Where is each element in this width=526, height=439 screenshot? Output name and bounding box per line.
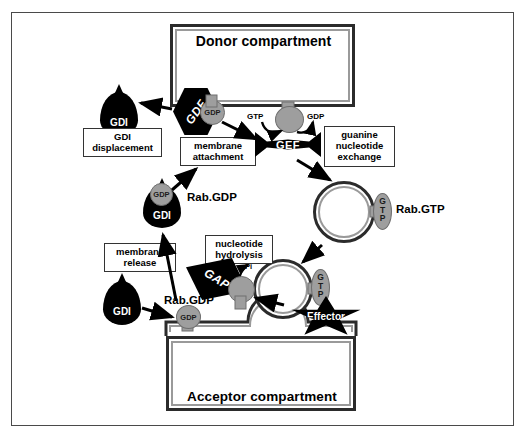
gdp-label-acceptor: GDP [180, 313, 196, 322]
guanine-exchange-line2: nucleotide [328, 140, 391, 151]
membrane-attachment-line1: membrane [184, 140, 252, 151]
rab-blob-acceptor-right [228, 276, 255, 303]
gdp-label-gdi-complex: GDP [153, 190, 169, 199]
acceptor-compartment-label: Acceptor compartment [174, 389, 350, 404]
guanine-nucleotide-exchange-label: guanine nucleotide exchange [324, 126, 395, 167]
membrane-release-line2: release [108, 257, 172, 268]
nucleotide-hydrolysis-line2: hydrolysis [209, 249, 269, 260]
gdp-nucleotide-acceptor-membrane: GDP [176, 305, 201, 329]
gdi-free-label: GDI [103, 306, 141, 317]
gdi-protein-free: GDI [103, 281, 141, 325]
vesicle-docked-inner [258, 264, 308, 314]
membrane-release-label: membrane release [104, 243, 176, 272]
gdp-nucleotide-on-gdi-complex: GDP [150, 183, 173, 206]
gdp-label-gdf: GDP [204, 108, 220, 117]
rab-gtp-vesicle-label: Rab.GTP [396, 203, 445, 215]
gef-label: GEF [276, 139, 300, 151]
gdp-out-label: GDP [307, 112, 324, 121]
guanine-exchange-line3: exchange [328, 151, 391, 162]
pi-label: Pi [245, 262, 252, 271]
nucleotide-hydrolysis-label: nucleotide hydrolysis [205, 235, 273, 264]
donor-compartment-label: Donor compartment [186, 33, 341, 49]
effector-label: Effector [307, 311, 345, 322]
rab-cycle-diagram: Donor compartment Acceptor compartment G… [0, 0, 526, 439]
gdi-complex-label: GDI [143, 210, 181, 221]
gtp-nucleotide-vesicle-1: G T P [373, 193, 392, 230]
gtp-in-label: GTP [247, 112, 263, 121]
gdp-nucleotide-on-gdf: GDP [200, 100, 225, 125]
gdi-displacement-line1: GDI [87, 131, 158, 142]
gtp-stacked-p-1: P [374, 214, 391, 223]
rab-blob-donor-membrane [275, 106, 304, 133]
rab-gdp-cytosolic-label: Rab.GDP [187, 191, 237, 203]
gdi-free-body-shape [103, 281, 141, 325]
vesicle-rab-gtp-inner [318, 186, 370, 238]
gdi-displacement-label: GDI displacement [83, 128, 162, 157]
membrane-attachment-line2: attachment [184, 151, 252, 162]
membrane-release-line1: membrane [108, 246, 172, 257]
gdi-label-top: GDI [100, 117, 138, 128]
guanine-exchange-line1: guanine [328, 129, 391, 140]
gdi-displacement-line2: displacement [87, 142, 158, 153]
nucleotide-hydrolysis-line1: nucleotide [209, 238, 269, 249]
membrane-attachment-label: membrane attachment [180, 137, 256, 166]
vesicle-rab-gtp [313, 181, 375, 243]
